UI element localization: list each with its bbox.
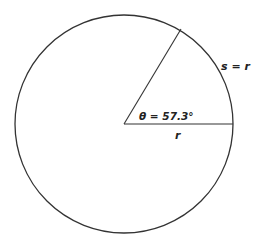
arc-length-label: s = r [221,60,250,73]
radian-diagram: θ = 57.3° r s = r [0,0,261,244]
angle-label: θ = 57.3° [139,110,193,122]
radius-label: r [175,129,181,142]
